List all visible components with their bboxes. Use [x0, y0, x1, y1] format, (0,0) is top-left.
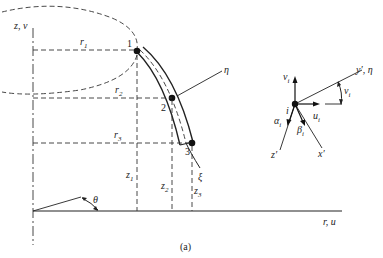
local-coordinate-frame: [280, 70, 362, 150]
v-i-label: vi: [283, 71, 289, 85]
shell-element: [137, 47, 200, 168]
theta-angle: θ: [33, 194, 98, 211]
axisymmetric-shell-diagram: z, v r, u θ 1 2 3 r1 r2 r3 z1 z2 z3 η ξ: [0, 0, 383, 258]
r2-label: r2: [115, 84, 123, 98]
z1-label: z1: [125, 169, 133, 183]
xi-label: ξ: [198, 171, 203, 183]
z-axis-label: z, v: [13, 20, 28, 31]
beta-i-label: βi: [296, 124, 304, 138]
node-3-label: 3: [185, 146, 190, 157]
u-i-label: ui: [313, 110, 320, 124]
node-i-label: i: [286, 105, 289, 116]
svg-text:θ: θ: [93, 194, 98, 205]
eta-label: η: [224, 64, 229, 75]
eta-line: [177, 71, 222, 96]
node-1: [134, 48, 141, 55]
r1-label: r1: [80, 36, 87, 50]
node-1-label: 1: [127, 38, 132, 49]
z-prime-label: z′: [270, 149, 278, 160]
z2-label: z2: [160, 180, 169, 194]
r3-label: r3: [114, 129, 122, 143]
alpha-i-label: αi: [274, 115, 281, 129]
nu-i-label: νi: [344, 85, 350, 99]
z3-label: z3: [193, 185, 202, 199]
figure-caption: (a): [180, 241, 191, 253]
node-2-label: 2: [161, 102, 166, 113]
r-axis-label: r, u: [323, 216, 336, 227]
x-prime-label: x′: [317, 148, 325, 159]
y-prime-eta-label: y′, η: [355, 64, 373, 75]
